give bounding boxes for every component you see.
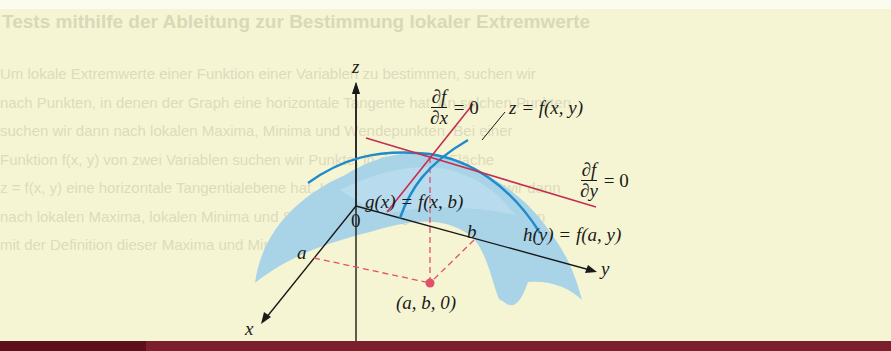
x-axis-label: x bbox=[245, 318, 253, 340]
a-tick-label: a bbox=[297, 242, 307, 264]
dfdy-denominator: ∂y bbox=[580, 181, 598, 201]
dfdx-equals: = 0 bbox=[454, 97, 479, 119]
dfdy-numerator: ∂f bbox=[581, 160, 598, 181]
y-arrow-icon bbox=[585, 265, 597, 273]
origin-label: 0 bbox=[351, 210, 361, 232]
surface-leader bbox=[482, 112, 505, 140]
y-axis-label: y bbox=[601, 258, 609, 280]
z-arrow-icon bbox=[353, 82, 360, 93]
h-curve-label: h(y) = f(a, y) bbox=[523, 224, 621, 246]
point-ab0 bbox=[426, 279, 435, 288]
point-label: (a, b, 0) bbox=[396, 292, 456, 314]
dfdx-equation: ∂f ∂x = 0 bbox=[430, 87, 479, 128]
dfdx-denominator: ∂x bbox=[430, 108, 448, 128]
dashed-a-to-point bbox=[314, 258, 430, 283]
dfdx-numerator: ∂f bbox=[431, 87, 448, 108]
b-tick-label: b bbox=[467, 221, 477, 243]
extrema-figure: z x y 0 a b ∂f ∂x = 0 ∂f ∂y = 0 z = f(x,… bbox=[0, 0, 891, 351]
dfdy-equals: = 0 bbox=[604, 170, 629, 192]
z-axis-label: z bbox=[352, 56, 359, 78]
surface-label: z = f(x, y) bbox=[509, 97, 583, 119]
dfdy-equation: ∂f ∂y = 0 bbox=[580, 160, 629, 201]
bottom-bar-accent bbox=[0, 341, 146, 351]
dashed-b-to-point bbox=[430, 240, 474, 283]
g-curve-label: g(x) = f(x, b) bbox=[365, 191, 463, 213]
x-axis-line bbox=[266, 206, 356, 318]
